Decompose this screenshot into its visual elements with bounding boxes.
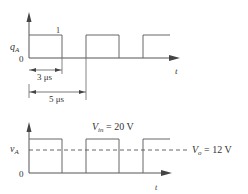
top-origin-label: 0 (19, 54, 24, 64)
dim-arrow-left-icon (30, 90, 36, 94)
period-label: 5 μs (49, 94, 65, 104)
bottom-y-axis-arrow-icon (27, 122, 32, 132)
dim-arrow-left-icon (30, 68, 36, 72)
period-dimension: 5 μs (29, 84, 86, 104)
top-y-axis-arrow-icon (27, 12, 32, 22)
vin-label: Vin = 20 V (92, 121, 135, 134)
bottom-x-label: t (155, 183, 158, 192)
top-high-label: 1 (56, 26, 60, 35)
bottom-x-axis-arrow-icon (161, 170, 172, 176)
top-plot: qA 0 1 t 3 μs 5 μs (10, 12, 180, 104)
top-y-label: qA (10, 41, 20, 54)
top-pulse-1 (29, 35, 62, 58)
dim-arrow-right-icon (55, 68, 61, 72)
top-pulse-3 (143, 35, 170, 58)
top-pulse-2 (86, 35, 119, 58)
top-x-axis-arrow-icon (169, 55, 180, 61)
bottom-plot: vA 0 t Vin = 20 V Vo = 12 V (10, 121, 233, 192)
bottom-pulse-1 (29, 139, 62, 173)
pwm-waveform-diagram: qA 0 1 t 3 μs 5 μs (0, 0, 248, 194)
bottom-origin-label: 0 (19, 169, 24, 179)
vo-label: Vo = 12 V (192, 144, 233, 157)
dim-arrow-right-icon (79, 90, 85, 94)
top-x-label: t (175, 66, 178, 76)
bottom-pulse-2 (86, 139, 119, 173)
bottom-pulse-3 (143, 139, 170, 173)
on-time-label: 3 μs (37, 72, 53, 82)
bottom-y-label: vA (10, 143, 19, 156)
on-time-dimension: 3 μs (29, 58, 62, 82)
